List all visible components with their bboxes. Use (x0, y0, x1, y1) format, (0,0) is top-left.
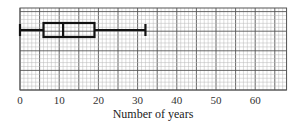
x-tick-label: 0 (17, 94, 23, 106)
x-axis-label: Number of years (113, 107, 194, 121)
grid (20, 8, 287, 90)
box-plot-chart: 0102030405060 Number of years (0, 0, 301, 127)
x-tick-label: 30 (132, 94, 144, 106)
x-tick-label: 40 (171, 94, 183, 106)
x-tick-label: 20 (93, 94, 105, 106)
x-axis-ticks: 0102030405060 (17, 94, 261, 106)
x-tick-label: 10 (54, 94, 66, 106)
x-tick-label: 50 (211, 94, 223, 106)
x-tick-label: 60 (250, 94, 262, 106)
